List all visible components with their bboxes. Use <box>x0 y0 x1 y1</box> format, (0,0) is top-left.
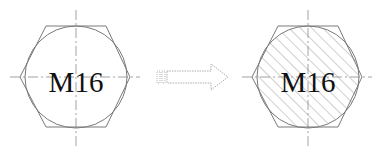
transition-arrow-icon <box>157 64 228 90</box>
right-bolt-head: M16 <box>242 10 372 146</box>
left-size-label: M16 <box>49 66 104 98</box>
left-bolt-head: M16 <box>10 10 140 146</box>
right-size-label: M16 <box>281 66 336 98</box>
bolt-diagram: M16 M16 <box>0 0 381 154</box>
